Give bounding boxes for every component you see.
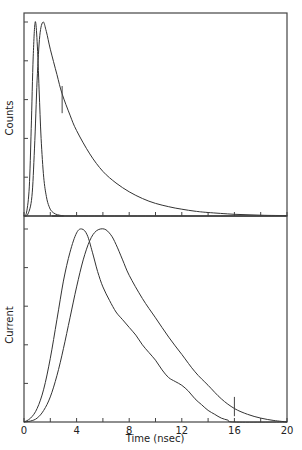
x-tick-label: 0 (21, 425, 27, 436)
top-y-axis-label: Counts (4, 101, 15, 136)
top-panel-frame (24, 13, 287, 216)
x-axis-label: Time (nsec) (125, 433, 185, 444)
top-panel-counts: Counts (4, 13, 287, 216)
curve-current-a-early-peak- (24, 229, 287, 422)
x-tick-label: 4 (73, 425, 79, 436)
curve-instrument-response-narrow- (24, 22, 287, 216)
curve-current-b-late-peak- (24, 229, 287, 422)
bottom-y-axis-label: Current (4, 306, 15, 344)
top-curves (24, 22, 287, 217)
bottom-panel-current: 048121620 Current Time (nsec) (4, 216, 293, 444)
x-tick-label: 20 (281, 425, 294, 436)
bottom-panel-frame (24, 216, 287, 422)
bottom-curves (24, 229, 287, 422)
x-tick-label: 16 (228, 425, 241, 436)
decay-chart: Counts 048121620 Current Time (nsec) (0, 0, 302, 450)
bottom-x-ticks (24, 418, 287, 422)
curve-fluorescence-decay-broad- (24, 22, 287, 216)
